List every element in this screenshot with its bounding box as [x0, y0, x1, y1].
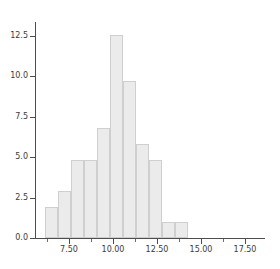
histogram-bar [149, 160, 162, 238]
histogram-bar [71, 160, 84, 238]
histogram-bar [123, 81, 136, 238]
histogram-bar [45, 207, 58, 238]
histogram-bar [110, 35, 123, 238]
y-tick-label-5: 12.5 [10, 32, 28, 40]
y-axis-labels: 0.0 2.5 5.0 7.5 10.0 12.5 [0, 0, 28, 269]
histogram-bar [162, 222, 175, 238]
x-tick-label-3: 15.00 [190, 246, 213, 254]
x-tick-mark-minor-1 [91, 239, 92, 242]
histogram-bar [136, 144, 149, 238]
x-tick-label-2: 12.50 [146, 246, 169, 254]
x-tick-mark-major-2 [157, 239, 158, 244]
x-tick-label-1: 10.00 [102, 246, 125, 254]
x-tick-mark-minor-3 [179, 239, 180, 242]
x-tick-mark-major-4 [245, 239, 246, 244]
y-tick-label-4: 10.0 [10, 72, 28, 80]
x-tick-mark-major-3 [201, 239, 202, 244]
histogram-chart: 0.0 2.5 5.0 7.5 10.0 12.5 7.50 10. [0, 0, 280, 269]
y-tick-label-2: 5.0 [15, 153, 28, 161]
x-tick-mark-minor-2 [135, 239, 136, 242]
x-tick-mark-major-0 [69, 239, 70, 244]
histogram-bar [175, 222, 188, 238]
x-tick-mark-major-1 [113, 239, 114, 244]
histogram-bar [84, 160, 97, 238]
x-tick-mark-minor-0 [47, 239, 48, 242]
histogram-bar [58, 191, 71, 238]
y-tick-label-1: 2.5 [15, 194, 28, 202]
x-tick-label-0: 7.50 [60, 246, 78, 254]
y-tick-label-3: 7.5 [15, 113, 28, 121]
histogram-bar [97, 128, 110, 238]
plot-area [35, 22, 265, 238]
x-tick-mark-minor-4 [223, 239, 224, 242]
x-tick-label-4: 17.50 [234, 246, 257, 254]
y-tick-label-0: 0.0 [15, 234, 28, 242]
